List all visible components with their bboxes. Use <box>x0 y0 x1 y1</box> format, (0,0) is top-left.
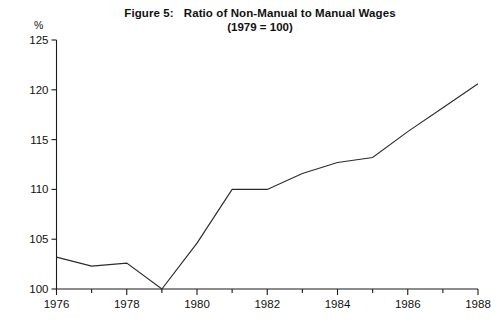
y-tick-label-100: 100 <box>29 283 48 295</box>
y-tick-label-110: 110 <box>30 183 48 195</box>
x-axis-tick-labels: 1976197819801982198419861988 <box>44 298 491 310</box>
x-tick-label-1988: 1988 <box>465 298 491 310</box>
x-axis-ticks <box>57 289 479 295</box>
y-axis-tick-labels: 100105110115120125 <box>29 34 48 295</box>
x-tick-label-1978: 1978 <box>114 298 140 310</box>
y-tick-label-125: 125 <box>29 34 48 46</box>
x-tick-label-1982: 1982 <box>254 298 280 310</box>
x-tick-label-1984: 1984 <box>325 298 351 310</box>
x-tick-label-1976: 1976 <box>44 298 70 310</box>
y-tick-label-120: 120 <box>29 84 48 96</box>
x-tick-label-1980: 1980 <box>184 298 210 310</box>
x-tick-label-1986: 1986 <box>395 298 421 310</box>
data-series-line <box>57 84 479 289</box>
figure-container: Figure 5:Ratio of Non-Manual to Manual W… <box>0 0 491 322</box>
y-axis-ticks <box>52 40 57 289</box>
y-tick-label-115: 115 <box>30 134 48 146</box>
y-tick-label-105: 105 <box>29 233 48 245</box>
line-chart-plot: 1976197819801982198419861988 10010511011… <box>0 0 491 322</box>
